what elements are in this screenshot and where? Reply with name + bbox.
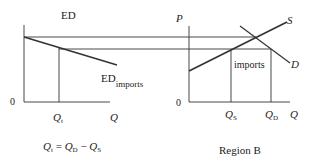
demand-label: D — [290, 58, 299, 70]
qs-label: QS — [225, 108, 237, 122]
region-caption: Region B — [219, 144, 261, 156]
qt-label: Qt — [53, 111, 63, 125]
left-x-axis-label: Q — [110, 111, 118, 123]
qd-label: QD — [265, 108, 278, 122]
imports-label: imports — [234, 59, 265, 70]
supply-label: S — [287, 14, 293, 26]
left-title: ED — [61, 9, 76, 21]
ed-curve-label: EDimports — [101, 72, 144, 89]
right-x-axis-label: Q — [290, 108, 298, 120]
diagram-svg: ED 0 Qt Q EDimports Qt = QD − QS P S D i… — [0, 0, 312, 168]
equation: Qt = QD − QS — [43, 140, 101, 154]
right-origin: 0 — [176, 97, 181, 108]
ed-imports-curve — [24, 37, 117, 65]
trade-diagram: ED 0 Qt Q EDimports Qt = QD − QS P S D i… — [0, 0, 312, 168]
demand-curve — [240, 26, 290, 63]
right-y-axis-label: P — [175, 12, 183, 24]
left-origin: 0 — [10, 96, 15, 107]
